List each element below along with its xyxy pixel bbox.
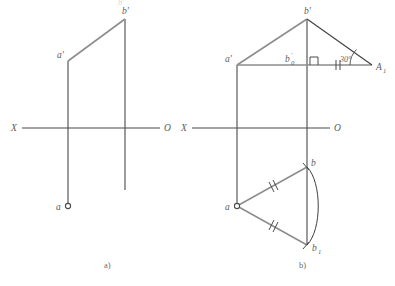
panel-b-label-X: X	[180, 123, 188, 133]
panel-b-label-b0-prime: b 0 '	[285, 51, 295, 66]
panel-a-label-a: a	[56, 202, 61, 212]
panel-b-label-b: b	[311, 158, 316, 168]
panel-b-label-b1: b 1	[312, 243, 321, 255]
panel-b-label-b-prime: b'	[304, 6, 312, 16]
rotation-arc-b-b1	[307, 167, 318, 245]
panel-a-label-O: O	[164, 123, 171, 133]
panel-b-label-a: a	[225, 202, 230, 212]
panel-a: X O a' b' a a)	[10, 6, 171, 270]
panel-a-label-X: X	[10, 123, 18, 133]
panel-b-point-a-marker	[234, 203, 239, 208]
svg-text:b: b	[285, 54, 290, 64]
panel-b-label-O: O	[334, 123, 341, 133]
panel-b: X O 30°	[180, 6, 386, 270]
panel-b-label-A1: A 1	[375, 62, 386, 74]
top-cut-text: b'	[118, 0, 124, 7]
panel-b-label-a-prime: a'	[225, 54, 233, 64]
panel-a-caption: a)	[104, 260, 111, 270]
panel-a-label-a-prime: a'	[57, 50, 65, 60]
figure-root: b' X O a' b' a a)	[0, 0, 395, 286]
panel-b-ground-line: X O	[180, 123, 341, 133]
right-angle-marker	[310, 57, 318, 65]
panel-a-segment-afront-bfront	[68, 19, 125, 61]
panel-a-label-b-prime: b'	[122, 6, 130, 16]
panel-b-caption: b)	[299, 260, 306, 270]
svg-text:b: b	[312, 243, 317, 253]
panel-b-segment-a-b	[237, 167, 307, 206]
svg-text:A: A	[375, 62, 382, 72]
svg-text:': '	[291, 51, 293, 58]
panel-b-segment-a-b1	[237, 206, 307, 245]
panel-b-segment-afront-bfront	[237, 19, 307, 65]
svg-text:1: 1	[383, 67, 386, 74]
angle-label-30: 30°	[339, 55, 352, 64]
panel-a-ground-line: X O	[10, 123, 171, 133]
svg-text:1: 1	[318, 248, 321, 255]
panel-a-point-a-marker	[65, 203, 70, 208]
projection-figure: X O a' b' a a) X O	[0, 0, 395, 286]
